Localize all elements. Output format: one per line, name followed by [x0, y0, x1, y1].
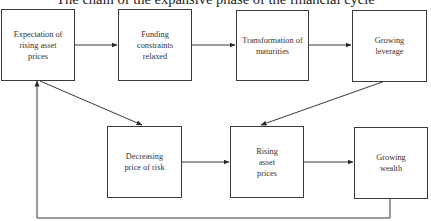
node-label: Expectation of rising asset prices — [11, 29, 65, 62]
node-expectation: Expectation of rising asset prices — [1, 9, 75, 81]
node-leverage: Growing leverage — [352, 10, 427, 82]
node-transformation: Transformation of maturities — [236, 10, 309, 81]
node-label: Decreasing price of risk — [120, 151, 170, 173]
edge-expectation-risk — [40, 81, 142, 125]
node-label: Transformation of maturities — [240, 35, 306, 57]
node-wealth: Growing wealth — [354, 127, 428, 199]
node-rising: Rising asset prices — [230, 126, 304, 198]
node-label: Growing leverage — [366, 35, 414, 57]
node-label: Growing wealth — [369, 152, 413, 174]
node-label: Funding constraints relaxed — [127, 29, 183, 62]
node-risk: Decreasing price of risk — [107, 126, 182, 198]
node-label: Rising asset prices — [249, 146, 285, 179]
node-funding: Funding constraints relaxed — [118, 9, 192, 81]
edge-leverage-rising — [261, 81, 385, 125]
edge-wealth-expectation — [37, 81, 390, 218]
